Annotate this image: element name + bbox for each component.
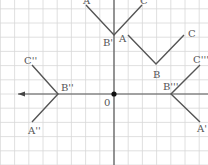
- point-label: C''': [193, 54, 208, 65]
- point-label: A': [196, 123, 207, 134]
- left-arrow-icon: [18, 92, 25, 97]
- point-label: B''': [163, 81, 179, 92]
- point-label: C: [140, 0, 148, 6]
- point-label: A: [118, 33, 127, 44]
- point-label: A'': [27, 125, 41, 136]
- point-label: A: [82, 0, 91, 6]
- figure-top: AB'C: [82, 0, 148, 48]
- point-label: B': [103, 37, 113, 48]
- origin-label: 0: [104, 97, 110, 108]
- figures: AB'CABCC''B''A''C'''B'''A': [24, 0, 208, 136]
- figure-left: C''B''A'': [24, 55, 74, 136]
- origin-point: [111, 91, 116, 96]
- coordinate-diagram: 0 AB'CABCC''B''A''C'''B'''A': [0, 0, 208, 165]
- point-label: C: [188, 28, 196, 39]
- point-label: B'': [61, 82, 74, 93]
- point-label: B: [153, 69, 160, 80]
- point-label: C'': [24, 55, 37, 66]
